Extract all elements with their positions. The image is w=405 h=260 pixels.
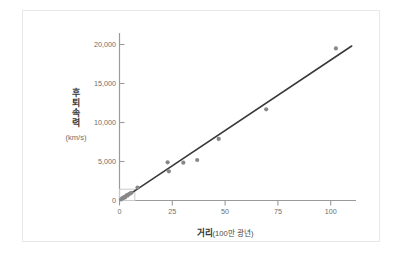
data-point (130, 191, 134, 195)
x-axis-label-main: 거리 (197, 228, 213, 238)
y-axis-label-block: 후 퇴 속 력 (km/s) (56, 88, 96, 142)
data-point (217, 137, 221, 141)
y-axis-label-char-4: 력 (56, 118, 96, 128)
y-axis-unit-label: (km/s) (56, 133, 96, 142)
x-tick-label-0: 0 (118, 207, 122, 216)
y-tick-label-10000: 10,000 (94, 118, 116, 127)
y-axis-label-char-1: 후 (56, 88, 96, 98)
x-axis-label-block: 거리(100만 광년) (150, 222, 300, 240)
y-axis-label: 후 퇴 속 력 (56, 88, 96, 128)
data-point (166, 160, 170, 164)
y-tick-marks (120, 45, 125, 201)
y-tick-label-0: 0 (112, 196, 116, 205)
x-tick-label-50: 50 (221, 207, 229, 216)
y-tick-label-15000: 15,000 (94, 79, 116, 88)
data-point (264, 107, 268, 111)
y-axis-label-char-3: 속 (56, 108, 96, 118)
data-point (181, 161, 185, 165)
x-tick-label-75: 75 (274, 207, 282, 216)
data-points (119, 46, 338, 201)
x-tick-label-25: 25 (168, 207, 176, 216)
regression-line (122, 46, 352, 200)
x-axis-label-sub: (100만 광년) (213, 229, 254, 238)
x-tick-label-100: 100 (325, 207, 337, 216)
data-point (135, 186, 139, 190)
x-tick-marks (120, 201, 331, 206)
y-tick-label-20000: 20,000 (94, 40, 116, 49)
data-point (334, 46, 338, 50)
y-axis-label-char-2: 퇴 (56, 98, 96, 108)
data-point (167, 169, 171, 173)
data-point (195, 158, 199, 162)
y-tick-label-5000: 5,000 (98, 157, 116, 166)
